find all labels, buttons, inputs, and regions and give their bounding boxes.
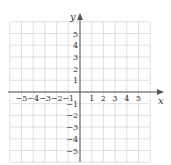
x-tick-label: 2 (101, 94, 106, 103)
x-tick-label: 5 (136, 94, 141, 103)
x-axis-label: x (158, 95, 164, 106)
x-tick-label: 3 (113, 94, 118, 103)
x-tick-label: 4 (124, 94, 129, 103)
y-tick-label: −2 (66, 111, 78, 120)
y-tick-label: 2 (73, 65, 78, 74)
y-tick-label: −3 (66, 123, 78, 132)
y-tick-label: 1 (73, 76, 78, 85)
y-tick-label: 5 (73, 30, 78, 39)
coordinate-plane: x y −5−4−3−2−112345 54321−1−2−3−4−5 (0, 0, 171, 165)
x-tick-labels: −5−4−3−2−112345 (16, 94, 141, 103)
x-tick-label: −3 (39, 94, 51, 103)
y-tick-label: 3 (73, 53, 78, 62)
x-tick-label: −4 (27, 94, 39, 103)
y-tick-label: −5 (66, 147, 78, 156)
x-tick-label: −5 (16, 94, 28, 103)
y-tick-label: −1 (66, 100, 78, 109)
y-axis-label: y (69, 11, 76, 22)
x-tick-label: 1 (89, 94, 94, 103)
x-tick-label: −2 (51, 94, 63, 103)
y-tick-label: 4 (73, 41, 78, 50)
y-tick-label: −4 (66, 135, 78, 144)
